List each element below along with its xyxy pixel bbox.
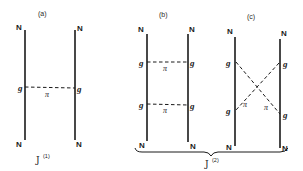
- curly-brace: [135, 148, 288, 156]
- vertex-label-upper-left: g: [225, 58, 231, 68]
- panel-a: (a) N N N N g g π J (1): [16, 10, 83, 165]
- order2-brace-group: J (2): [135, 148, 288, 169]
- order1-superscript: (1): [43, 153, 50, 159]
- vertex-label-lower-left: g: [138, 100, 144, 110]
- nucleon-label-bottom-left: N: [226, 143, 232, 152]
- nucleon-label-bottom-left: N: [139, 141, 145, 150]
- pion-label-right: π: [264, 103, 269, 112]
- panel-c-label: (c): [247, 13, 255, 21]
- order1-label: J (1): [35, 153, 50, 165]
- pion-label-upper: π: [163, 64, 168, 73]
- pion-label-left: π: [243, 100, 248, 109]
- pion-exchange-line: [25, 87, 75, 88]
- nucleon-label-top-left: N: [227, 27, 233, 36]
- nucleon-label-top-right: N: [77, 24, 83, 33]
- nucleon-label-top-right: N: [189, 25, 195, 34]
- vertex-label-lower-right: g: [189, 101, 195, 111]
- order2-label: J (2): [204, 157, 219, 169]
- nucleon-label-top-left: N: [16, 23, 22, 32]
- nucleon-label-top-left: N: [138, 25, 144, 34]
- vertex-label-lower-right: g: [282, 110, 288, 120]
- pion-label-lower: π: [163, 106, 168, 115]
- vertex-label-right: g: [76, 84, 82, 94]
- pion-exchange-line-lower: [147, 104, 188, 105]
- order2-superscript: (2): [212, 157, 219, 163]
- vertex-label-upper-right: g: [189, 58, 195, 68]
- panel-c: (c) N N N N g g g g π π: [225, 13, 288, 153]
- nucleon-label-bottom-right: N: [190, 142, 196, 151]
- nucleon-label-top-right: N: [281, 29, 287, 38]
- vertex-label-left: g: [17, 83, 23, 93]
- vertex-label-upper-right: g: [282, 59, 288, 69]
- vertex-label-lower-left: g: [225, 106, 231, 116]
- panel-b-label: (b): [159, 11, 168, 19]
- order1-symbol: J: [35, 155, 40, 165]
- nucleon-label-bottom-right: N: [76, 140, 82, 149]
- panel-a-label: (a): [38, 10, 47, 18]
- panel-b: (b) N N N N g g π g g π: [138, 11, 196, 151]
- pion-label: π: [45, 90, 50, 99]
- nucleon-label-bottom-left: N: [16, 140, 22, 149]
- vertex-label-upper-left: g: [138, 58, 144, 68]
- order2-symbol: J: [204, 159, 209, 169]
- feynman-diagram-figure: (a) N N N N g g π J (1) (b) N N N N g g …: [0, 0, 303, 171]
